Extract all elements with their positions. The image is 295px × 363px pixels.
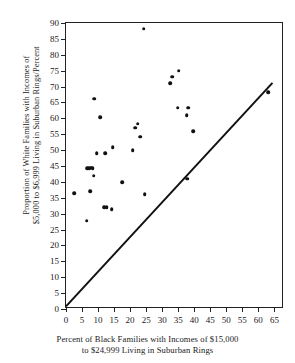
data-point xyxy=(110,207,114,211)
y-axis-tick xyxy=(61,118,66,119)
y-axis-tick-label: 40 xyxy=(35,177,59,187)
y-axis-tick xyxy=(61,293,66,294)
data-point xyxy=(266,90,270,94)
data-point xyxy=(131,148,135,152)
data-point xyxy=(72,191,76,195)
y-axis-tick xyxy=(61,39,66,40)
x-axis-tick xyxy=(258,307,259,312)
data-point xyxy=(176,106,180,110)
y-axis-tick-label: 10 xyxy=(35,272,59,282)
y-axis-tick xyxy=(61,198,66,199)
data-point xyxy=(139,135,143,139)
x-axis-tick-label: 60 xyxy=(254,315,263,325)
y-axis-tick-label: 5 xyxy=(35,288,59,298)
y-axis-tick-label: 65 xyxy=(35,97,59,107)
y-axis-tick-label: 60 xyxy=(35,113,59,123)
data-point xyxy=(185,114,189,118)
plot-area: 051015202530354045505560657075808590 051… xyxy=(65,22,283,308)
data-point xyxy=(105,206,109,210)
y-axis-tick-label: 55 xyxy=(35,129,59,139)
y-axis-tick-label: 85 xyxy=(35,34,59,44)
y-axis-tick-label: 50 xyxy=(35,145,59,155)
y-axis-tick-label: 20 xyxy=(35,240,59,250)
x-axis-title: Percent of Black Families with Incomes o… xyxy=(0,334,295,355)
x-axis-tick-label: 65 xyxy=(270,315,279,325)
y-axis-tick-label: 0 xyxy=(35,304,59,314)
y-axis-tick-label: 15 xyxy=(35,256,59,266)
x-axis-tick xyxy=(210,307,211,312)
x-axis-tick xyxy=(146,307,147,312)
data-point xyxy=(177,69,181,73)
y-axis-tick xyxy=(61,150,66,151)
y-axis-tick xyxy=(61,134,66,135)
x-axis-tick xyxy=(98,307,99,312)
y-axis-tick-label: 80 xyxy=(35,50,59,60)
x-axis-title-line-2: to $24,999 Living in Suburban Rings xyxy=(0,345,295,356)
data-point xyxy=(91,166,95,170)
y-axis-tick-label: 90 xyxy=(35,18,59,28)
data-point xyxy=(171,75,175,79)
x-axis-tick-label: 55 xyxy=(238,315,247,325)
data-point xyxy=(89,190,93,194)
x-axis-tick xyxy=(178,307,179,312)
x-axis-tick xyxy=(226,307,227,312)
data-point xyxy=(111,145,115,149)
x-axis-tick-label: 40 xyxy=(190,315,199,325)
data-point xyxy=(92,97,96,101)
x-axis-tick xyxy=(114,307,115,312)
data-point xyxy=(133,126,137,130)
y-axis-tick xyxy=(61,87,66,88)
data-point xyxy=(142,27,146,31)
x-axis-tick xyxy=(274,307,275,312)
y-axis-tick xyxy=(61,214,66,215)
y-axis-tick-label: 30 xyxy=(35,209,59,219)
scatter-plot-figure: Proportion of White Families with Income… xyxy=(0,0,295,363)
y-axis-tick xyxy=(61,102,66,103)
y-axis-tick xyxy=(61,71,66,72)
y-axis-tick xyxy=(61,55,66,56)
y-axis-tick-label: 75 xyxy=(35,66,59,76)
x-axis-tick-label: 10 xyxy=(94,315,103,325)
x-axis-tick xyxy=(66,307,67,312)
data-points-layer xyxy=(66,23,282,307)
y-axis-tick xyxy=(61,182,66,183)
data-point xyxy=(136,122,140,126)
x-axis-tick-label: 50 xyxy=(222,315,231,325)
data-point xyxy=(143,192,147,196)
x-axis-tick-label: 15 xyxy=(110,315,119,325)
y-axis-title-line-1: Proportion of White Families with Income… xyxy=(22,5,32,265)
x-axis-tick xyxy=(162,307,163,312)
data-point xyxy=(191,129,195,133)
x-axis-tick xyxy=(130,307,131,312)
data-point xyxy=(98,116,102,120)
x-axis-tick xyxy=(242,307,243,312)
x-axis-tick-label: 0 xyxy=(64,315,69,325)
x-axis-tick xyxy=(194,307,195,312)
data-point xyxy=(95,151,99,155)
y-axis-tick xyxy=(61,245,66,246)
data-point xyxy=(120,180,124,184)
data-point xyxy=(185,177,189,181)
x-axis-tick-label: 45 xyxy=(206,315,215,325)
data-point xyxy=(187,106,191,110)
y-axis-tick-label: 45 xyxy=(35,161,59,171)
x-axis-title-line-1: Percent of Black Families with Incomes o… xyxy=(0,334,295,345)
x-axis-tick-label: 35 xyxy=(174,315,183,325)
y-axis-tick-label: 25 xyxy=(35,225,59,235)
y-axis-tick xyxy=(61,230,66,231)
y-axis-tick-label: 35 xyxy=(35,193,59,203)
data-point xyxy=(92,174,96,178)
y-axis-tick xyxy=(61,166,66,167)
x-axis-tick-label: 30 xyxy=(158,315,167,325)
data-point xyxy=(103,151,107,155)
x-axis-tick xyxy=(82,307,83,312)
x-axis-tick-label: 20 xyxy=(126,315,135,325)
y-axis-tick xyxy=(61,277,66,278)
data-point xyxy=(85,219,89,223)
x-axis-tick-label: 5 xyxy=(80,315,85,325)
x-axis-tick-label: 25 xyxy=(142,315,151,325)
y-axis-tick xyxy=(61,261,66,262)
y-axis-tick xyxy=(61,23,66,24)
y-axis-tick-label: 70 xyxy=(35,82,59,92)
data-point xyxy=(168,82,172,86)
